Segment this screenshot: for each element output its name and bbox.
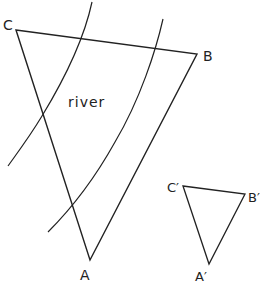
- label-b-prime: B′: [248, 190, 260, 205]
- label-a-prime: A′: [195, 269, 207, 284]
- label-b: B: [203, 48, 213, 64]
- river-left-bank: [8, 2, 92, 166]
- label-a: A: [80, 267, 90, 283]
- large-triangle: [16, 30, 197, 260]
- river-right-bank: [48, 19, 163, 232]
- river-label: river: [68, 94, 105, 110]
- diagram-canvas: C B A river C′ B′ A′: [0, 0, 267, 284]
- label-c-prime: C′: [167, 180, 179, 195]
- small-triangle: [183, 186, 245, 264]
- label-c: C: [3, 17, 13, 33]
